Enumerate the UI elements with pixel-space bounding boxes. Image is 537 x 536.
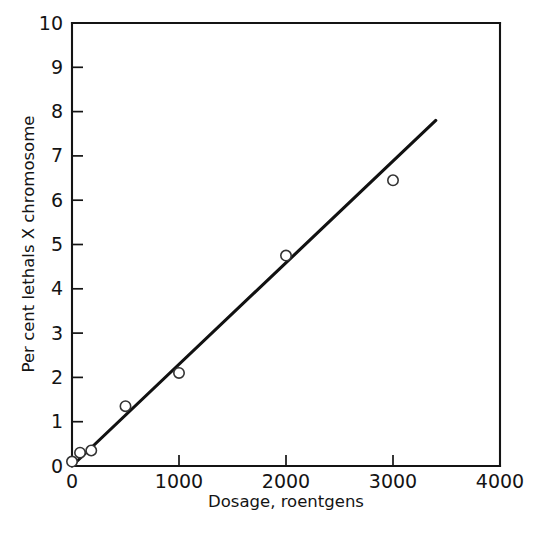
data-point-marker — [75, 448, 85, 458]
x-tick-label: 3000 — [369, 470, 417, 492]
y-tick-label: 3 — [51, 322, 63, 344]
y-tick-label: 1 — [51, 410, 63, 432]
scatter-plot: 012345678910 01000200030004000 Dosage, r… — [0, 0, 537, 536]
y-tick-label: 0 — [51, 455, 63, 477]
x-tick-label: 4000 — [476, 470, 524, 492]
y-tick-label: 4 — [51, 277, 63, 299]
x-axis-title: Dosage, roentgens — [208, 492, 364, 511]
data-point-marker — [67, 456, 77, 466]
y-tick-label: 5 — [51, 233, 63, 255]
data-point-marker — [388, 175, 398, 185]
y-tick-label: 9 — [51, 56, 63, 78]
chart-figure: 012345678910 01000200030004000 Dosage, r… — [0, 0, 537, 536]
data-point-marker — [174, 368, 184, 378]
y-axis-title: Per cent lethals X chromosome — [19, 116, 38, 373]
y-tick-label: 2 — [51, 366, 63, 388]
data-point-marker — [120, 401, 130, 411]
y-tick-label: 10 — [39, 12, 63, 34]
y-tick-label: 7 — [51, 144, 63, 166]
x-tick-label: 0 — [66, 470, 78, 492]
x-tick-label: 2000 — [262, 470, 310, 492]
data-point-marker — [86, 445, 96, 455]
data-point-marker — [281, 250, 291, 260]
x-tick-label: 1000 — [155, 470, 203, 492]
y-tick-label: 6 — [51, 189, 63, 211]
y-tick-label: 8 — [51, 100, 63, 122]
